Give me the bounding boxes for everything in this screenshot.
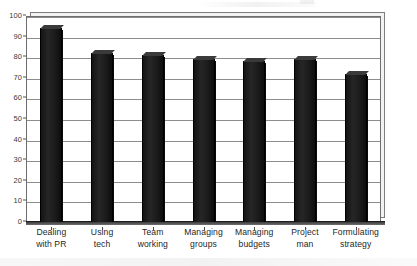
x-axis-category-label: Formulatingstrategy (330, 227, 381, 263)
x-axis-category-label: Managinggroups (178, 227, 229, 263)
bar-top-face (193, 56, 217, 60)
x-axis-category-label-line2: working (127, 239, 178, 251)
bar[interactable] (193, 59, 213, 222)
bar-front-face (294, 59, 316, 222)
x-axis-tick-mark (254, 227, 255, 230)
y-axis-tick-label: 50 (13, 115, 22, 122)
y-axis-tick-label: 20 (13, 176, 22, 183)
bar-chart: 1009080706050403020100 Dealingwith PRUsi… (0, 0, 417, 266)
bar[interactable] (345, 74, 365, 222)
bar[interactable] (40, 28, 60, 222)
x-axis-category-label: Usingtech (77, 227, 128, 263)
bar[interactable] (243, 61, 263, 222)
bar-series (26, 16, 381, 222)
y-axis-tick-label: 30 (13, 156, 22, 163)
bar-top-face (294, 56, 318, 60)
bar[interactable] (91, 53, 111, 222)
bar-front-face (40, 28, 62, 222)
x-axis-category-label-line2: budgets (229, 239, 280, 251)
x-axis-tick-mark (153, 227, 154, 230)
y-axis-tick-label: 90 (13, 32, 22, 39)
x-axis-tick-mark (305, 227, 306, 230)
bar-front-face (345, 74, 367, 222)
x-axis-category-label-line2: with PR (26, 239, 77, 251)
y-axis-tick-label: 0 (18, 218, 22, 225)
x-axis-category-label: Projectman (280, 227, 331, 263)
x-axis-tick-mark (51, 227, 52, 230)
y-axis-tick-label: 10 (13, 197, 22, 204)
y-axis-tick-label: 40 (13, 135, 22, 142)
bar-top-face (345, 71, 369, 75)
x-axis-category-label-line2: strategy (330, 239, 381, 251)
bar-front-face (91, 53, 113, 222)
y-axis-tick-label: 60 (13, 94, 22, 101)
bar-top-face (142, 52, 166, 56)
x-axis-category-label: Dealingwith PR (26, 227, 77, 263)
y-axis-tick-label: 100 (9, 12, 22, 19)
bar[interactable] (142, 55, 162, 222)
y-axis-tick-label: 70 (13, 73, 22, 80)
bar-front-face (142, 55, 164, 222)
y-axis: 1009080706050403020100 (0, 11, 22, 219)
x-axis-labels: Dealingwith PRUsingtechTeamworkingManagi… (26, 227, 381, 263)
x-axis-tick-mark (204, 227, 205, 230)
x-axis-category-label: Managingbudgets (229, 227, 280, 263)
bar[interactable] (294, 59, 314, 222)
bar-top-face (91, 50, 115, 54)
bar-front-face (193, 59, 215, 222)
x-axis-category-label-line2: man (280, 239, 331, 251)
x-axis-category-label: Teamworking (127, 227, 178, 263)
x-axis-category-label-line2: tech (77, 239, 128, 251)
x-axis-tick-mark (356, 227, 357, 230)
y-axis-tick-label: 80 (13, 53, 22, 60)
x-axis-category-label-line2: groups (178, 239, 229, 251)
x-axis-tick-mark (102, 227, 103, 230)
bar-front-face (243, 61, 265, 222)
